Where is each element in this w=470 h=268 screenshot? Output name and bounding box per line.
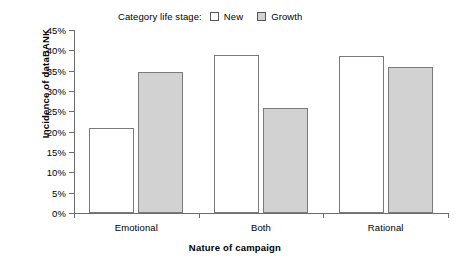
legend-title: Category life stage:	[118, 11, 202, 22]
y-axis-tick-label: 35%	[32, 65, 66, 76]
x-axis-title: Nature of campaign	[0, 242, 470, 253]
bar-rational-new	[339, 56, 384, 213]
y-axis-tick-label: 15%	[32, 147, 66, 158]
y-axis-tick	[69, 152, 74, 153]
x-axis-category-label: Emotional	[115, 222, 158, 233]
y-axis-tick-label: 45%	[32, 25, 66, 36]
legend-swatch-growth-icon	[257, 12, 266, 21]
y-axis-tick-label: 0%	[32, 208, 66, 219]
bar-both-new	[214, 55, 259, 213]
y-axis-tick	[69, 111, 74, 112]
y-axis-tick-label: 25%	[32, 106, 66, 117]
legend-label-new: New	[224, 11, 243, 22]
bar-rational-growth	[388, 67, 433, 213]
x-axis-tick	[323, 213, 324, 218]
x-axis-line	[74, 213, 448, 214]
y-axis-tick-label: 40%	[32, 45, 66, 56]
y-axis-line	[74, 30, 75, 213]
x-axis-category-label: Both	[251, 222, 271, 233]
legend-entry-growth: Growth	[257, 11, 302, 22]
x-axis-tick	[199, 213, 200, 218]
x-axis-tick	[448, 213, 449, 218]
bar-emotional-growth	[138, 72, 183, 213]
bar-chart: Category life stage: New Growth Incidenc…	[0, 0, 470, 268]
y-axis-tick	[69, 71, 74, 72]
y-axis-tick-label: 20%	[32, 126, 66, 137]
bar-both-growth	[263, 108, 308, 213]
y-axis-tick-label: 5%	[32, 187, 66, 198]
y-axis-tick	[69, 30, 74, 31]
y-axis-tick	[69, 172, 74, 173]
y-axis-tick	[69, 132, 74, 133]
x-axis-category-label: Rational	[368, 222, 404, 233]
y-axis-tick	[69, 193, 74, 194]
y-axis-tick	[69, 91, 74, 92]
bar-emotional-new	[89, 128, 134, 213]
legend-entry-new: New	[210, 11, 243, 22]
chart-legend: Category life stage: New Growth	[118, 8, 378, 24]
legend-label-growth: Growth	[271, 11, 302, 22]
y-axis-tick	[69, 50, 74, 51]
x-axis-tick	[74, 213, 75, 218]
plot-area: 45%40%35%30%25%20%15%10%5%0% EmotionalBo…	[74, 30, 448, 213]
legend-swatch-new-icon	[210, 12, 219, 21]
y-axis-tick-label: 10%	[32, 167, 66, 178]
y-axis-tick-label: 30%	[32, 86, 66, 97]
